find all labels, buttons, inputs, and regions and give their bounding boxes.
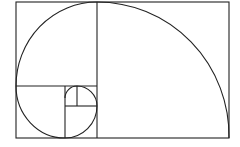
golden-spiral-diagram (0, 0, 240, 147)
diagram-canvas (0, 0, 240, 147)
outer-golden-rectangle (16, 2, 229, 138)
golden-spiral-curve (16, 2, 229, 138)
